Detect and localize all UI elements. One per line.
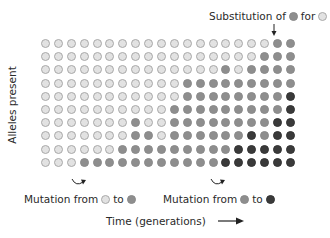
- dark-allele-dot: [234, 145, 243, 154]
- dark-allele-dot: [260, 145, 269, 154]
- light-allele-dot: [144, 79, 153, 88]
- grid-row: [41, 143, 299, 156]
- light-allele-dot: [247, 39, 256, 48]
- medium-allele-dot: [144, 145, 153, 154]
- light-allele-dot: [105, 65, 114, 74]
- light-allele-dot: [157, 131, 166, 140]
- light-allele-dot: [234, 52, 243, 61]
- mutation-curve-arrow-2-icon: [210, 178, 226, 188]
- light-allele-dot: [196, 52, 205, 61]
- medium-allele-dot: [273, 52, 282, 61]
- medium-allele-dot: [247, 65, 256, 74]
- medium-allele-dot: [234, 92, 243, 101]
- light-allele-dot: [209, 65, 218, 74]
- down-arrow-icon: [271, 24, 277, 36]
- medium-allele-dot: [234, 118, 243, 127]
- dark-allele-dot: [286, 158, 295, 167]
- light-allele-dot: [157, 65, 166, 74]
- time-text: Time (generations): [106, 215, 206, 227]
- medium-allele-icon: [127, 195, 136, 204]
- light-allele-dot: [80, 145, 89, 154]
- light-allele-dot: [183, 65, 192, 74]
- medium-allele-dot: [183, 92, 192, 101]
- light-allele-dot: [118, 131, 127, 140]
- light-allele-dot: [131, 79, 140, 88]
- medium-allele-dot: [209, 158, 218, 167]
- medium-allele-dot: [196, 145, 205, 154]
- dark-allele-dot: [234, 158, 243, 167]
- light-allele-dot: [170, 79, 179, 88]
- light-allele-dot: [157, 39, 166, 48]
- light-allele-dot: [67, 92, 76, 101]
- light-allele-dot: [118, 65, 127, 74]
- y-axis-label: Alleles present: [6, 50, 20, 160]
- dark-allele-dot: [221, 158, 230, 167]
- light-allele-dot: [144, 92, 153, 101]
- grid-row: [41, 156, 299, 169]
- medium-allele-dot: [273, 105, 282, 114]
- medium-allele-dot: [183, 158, 192, 167]
- medium-allele-dot: [260, 79, 269, 88]
- medium-allele-dot: [273, 65, 282, 74]
- medium-allele-dot: [209, 118, 218, 127]
- light-allele-dot: [93, 131, 102, 140]
- light-allele-dot: [93, 52, 102, 61]
- light-allele-dot: [157, 118, 166, 127]
- medium-allele-dot: [170, 145, 179, 154]
- light-allele-dot: [131, 52, 140, 61]
- dark-allele-dot: [273, 145, 282, 154]
- light-allele-dot: [41, 131, 50, 140]
- substitution-for-text: for: [301, 10, 315, 22]
- medium-allele-dot: [286, 79, 295, 88]
- medium-allele-dot: [170, 105, 179, 114]
- light-allele-dot: [131, 105, 140, 114]
- medium-allele-dot: [273, 92, 282, 101]
- mutation-2-to-text: to: [252, 193, 263, 205]
- light-allele-dot: [131, 92, 140, 101]
- mutation-annotation-1: Mutation from to: [24, 193, 139, 205]
- mutation-2-text: Mutation from: [163, 193, 237, 205]
- medium-allele-dot: [144, 158, 153, 167]
- medium-allele-dot: [144, 131, 153, 140]
- light-allele-dot: [247, 52, 256, 61]
- medium-allele-dot: [183, 79, 192, 88]
- light-allele-dot: [67, 131, 76, 140]
- light-allele-dot: [41, 52, 50, 61]
- medium-allele-dot: [221, 105, 230, 114]
- dark-allele-dot: [273, 131, 282, 140]
- light-allele-dot: [131, 39, 140, 48]
- light-allele-dot: [105, 118, 114, 127]
- mutation-1-text: Mutation from: [24, 193, 98, 205]
- light-allele-dot: [41, 65, 50, 74]
- light-allele-dot: [170, 39, 179, 48]
- light-allele-dot: [105, 105, 114, 114]
- light-allele-dot: [105, 92, 114, 101]
- light-allele-dot: [93, 145, 102, 154]
- medium-allele-dot: [196, 118, 205, 127]
- medium-allele-dot: [221, 79, 230, 88]
- medium-allele-dot: [183, 145, 192, 154]
- medium-allele-dot: [221, 131, 230, 140]
- dark-allele-dot: [247, 158, 256, 167]
- light-allele-dot: [54, 131, 63, 140]
- light-allele-icon: [101, 195, 110, 204]
- light-allele-dot: [170, 65, 179, 74]
- light-allele-dot: [144, 118, 153, 127]
- light-allele-dot: [41, 105, 50, 114]
- light-allele-dot: [41, 158, 50, 167]
- light-allele-dot: [209, 52, 218, 61]
- dark-allele-dot: [286, 118, 295, 127]
- light-allele-dot: [93, 118, 102, 127]
- light-allele-dot: [80, 105, 89, 114]
- medium-allele-dot: [183, 118, 192, 127]
- light-allele-dot: [93, 39, 102, 48]
- substitution-annotation: Substitution of for: [209, 10, 330, 22]
- medium-allele-dot: [131, 118, 140, 127]
- dark-allele-dot: [286, 105, 295, 114]
- light-allele-dot: [80, 52, 89, 61]
- light-allele-dot: [118, 79, 127, 88]
- medium-allele-dot: [273, 79, 282, 88]
- light-allele-dot: [144, 105, 153, 114]
- light-allele-dot: [144, 52, 153, 61]
- light-allele-dot: [105, 52, 114, 61]
